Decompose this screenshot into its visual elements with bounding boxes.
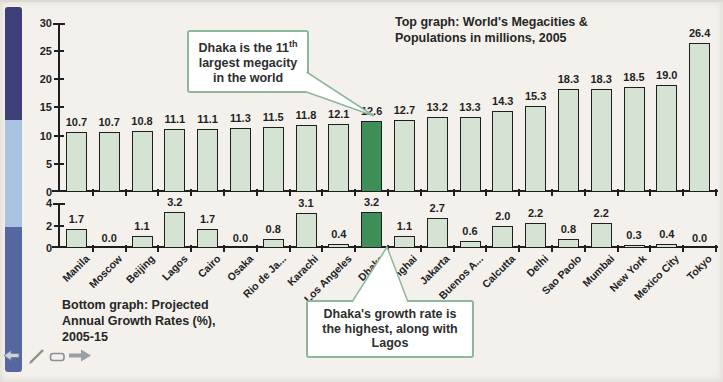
bottom-graph-caption-line1: Bottom graph: Projected (62, 297, 215, 313)
x-tick-top (289, 189, 291, 196)
value-label-bottom-Rio de Ja...: 0.8 (257, 222, 289, 236)
next-page-icon[interactable] (68, 348, 93, 363)
bar-top-Shanghai (394, 120, 415, 192)
value-label-bottom-Jakarta: 2.7 (421, 201, 453, 215)
city-label-Beijing: Beijing (124, 253, 157, 286)
y-tick-top (54, 163, 64, 165)
x-tick-bottom (715, 245, 717, 252)
y-tick-label-top-20: 20 (26, 72, 52, 86)
eraser-icon[interactable] (49, 352, 66, 363)
bar-top-Tokyo (689, 43, 710, 192)
bar-bottom-Dhaka (361, 212, 382, 248)
city-label-Manila: Manila (60, 253, 91, 284)
x-tick-bottom (289, 245, 291, 252)
y-tick-top (54, 135, 64, 137)
value-label-top-Tokyo: 26.4 (684, 26, 716, 40)
scanned-chart-page: Top graph: World's Megacities & Populati… (0, 0, 723, 382)
value-label-bottom-Los Angeles: 0.4 (323, 227, 355, 241)
x-tick-bottom (682, 245, 684, 252)
value-label-bottom-Shanghai: 1.1 (388, 219, 420, 233)
x-tick-bottom (321, 245, 323, 252)
bar-top-Dhaka (361, 121, 382, 192)
x-tick-bottom (617, 245, 619, 252)
x-tick-top (321, 189, 323, 196)
x-tick-bottom (485, 245, 487, 252)
bar-bottom-Karachi (296, 213, 317, 248)
value-label-top-Moscow: 10.7 (93, 115, 125, 129)
value-label-bottom-Mexico City: 0.4 (651, 227, 683, 241)
value-label-top-Calcutta: 14.3 (487, 94, 519, 108)
bar-top-Moscow (99, 132, 120, 192)
bar-top-New York (624, 87, 645, 192)
bar-top-Sao Paolo (558, 89, 579, 192)
bar-top-Cairo (197, 129, 218, 192)
bar-top-Buenos A... (460, 117, 481, 192)
value-label-top-New York: 18.5 (618, 70, 650, 84)
value-label-bottom-Delhi: 2.2 (520, 206, 552, 220)
y-tick-label-bottom-4: 4 (26, 196, 52, 210)
x-tick-bottom (223, 245, 225, 252)
value-label-bottom-Tokyo: 0.0 (684, 231, 716, 245)
bar-bottom-Lagos (164, 212, 185, 248)
value-label-bottom-Manila: 1.7 (60, 212, 92, 226)
value-label-top-Los Angeles: 12.1 (323, 107, 355, 121)
pen-icon[interactable] (28, 346, 47, 365)
y-tick-label-top-5: 5 (26, 157, 52, 171)
x-tick-top (682, 189, 684, 196)
value-label-top-Sao Paolo: 18.3 (552, 72, 584, 86)
bar-bottom-Manila (66, 229, 87, 248)
top-graph-title: Top graph: World's Megacities & Populati… (395, 14, 588, 46)
y-tick-label-bottom-0: 0 (26, 241, 52, 255)
x-tick-top (551, 189, 553, 196)
bar-top-Rio de Ja... (263, 127, 284, 192)
value-label-bottom-Osaka: 0.0 (224, 231, 256, 245)
y-tick-label-top-30: 30 (26, 16, 52, 30)
value-label-top-Delhi: 15.3 (520, 89, 552, 103)
bar-top-Delhi (525, 106, 546, 192)
x-tick-top (584, 189, 586, 196)
bar-bottom-New York (624, 245, 645, 248)
x-tick-bottom (157, 245, 159, 252)
bar-bottom-Mumbai (591, 223, 612, 248)
value-label-bottom-Mumbai: 2.2 (585, 206, 617, 220)
x-tick-bottom (387, 245, 389, 252)
bar-bottom-Rio de Ja... (263, 239, 284, 248)
value-label-top-Karachi: 11.8 (290, 108, 322, 122)
x-tick-bottom (256, 245, 258, 252)
bar-bottom-Los Angeles (328, 244, 349, 249)
y-tick-top (54, 106, 64, 108)
slide-edge-strip-middle (5, 120, 22, 227)
value-label-top-Buenos A...: 13.3 (454, 100, 486, 114)
value-label-top-Beijing: 10.8 (126, 114, 158, 128)
bar-top-Lagos (164, 129, 185, 192)
x-tick-top (125, 189, 127, 196)
x-tick-top (420, 189, 422, 196)
value-label-top-Shanghai: 12.7 (388, 103, 420, 117)
x-tick-bottom (190, 245, 192, 252)
bar-top-Jakarta (427, 117, 448, 192)
x-tick-top (453, 189, 455, 196)
x-tick-bottom (453, 245, 455, 252)
bar-bottom-Mexico City (656, 244, 677, 249)
bar-top-Manila (66, 132, 87, 192)
previous-page-icon[interactable] (3, 349, 20, 362)
callout-bottom-text: Dhaka's growth rate is the highest, alon… (322, 307, 457, 350)
value-label-bottom-Sao Paolo: 0.8 (552, 222, 584, 236)
value-label-bottom-Beijing: 1.1 (126, 219, 158, 233)
value-label-top-Cairo: 11.1 (192, 112, 224, 126)
value-label-top-Jakarta: 13.2 (421, 100, 453, 114)
x-tick-bottom (518, 245, 520, 252)
y-axis-cap-bottom (53, 203, 65, 205)
city-label-Tokyo: Tokyo (685, 253, 714, 282)
y-axis-cap-top (53, 23, 65, 25)
x-tick-top (223, 189, 225, 196)
bar-bottom-Buenos A... (460, 241, 481, 248)
value-label-bottom-Buenos A...: 0.6 (454, 224, 486, 238)
x-tick-bottom (584, 245, 586, 252)
city-label-Moscow: Moscow (87, 253, 124, 290)
bar-top-Los Angeles (328, 124, 349, 192)
value-label-bottom-Karachi: 3.1 (290, 196, 322, 210)
value-label-bottom-Lagos: 3.2 (159, 195, 191, 209)
y-tick-top (54, 78, 64, 80)
x-tick-bottom (125, 245, 127, 252)
